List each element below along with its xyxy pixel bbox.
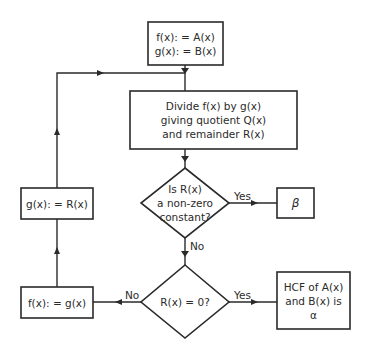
- node-assign-g: g(x): = R(x): [21, 188, 93, 219]
- node-init-line-1: f(x): = A(x): [156, 30, 215, 44]
- node-hcf-line-1: HCF of A(x): [284, 280, 344, 294]
- node-hcf-line-3: α: [310, 308, 317, 322]
- edge-label-nonzero-yes: Yes: [234, 190, 251, 202]
- node-divide: Divide f(x) by g(x) giving quotient Q(x)…: [130, 91, 297, 149]
- node-hcf: HCF of A(x) and B(x) is α: [277, 272, 350, 329]
- arrow-right-icon: [97, 70, 104, 76]
- node-assign-f-label: f(x): = g(x): [28, 296, 86, 310]
- node-divide-line-3: and remainder R(x): [162, 127, 264, 141]
- node-beta-label: β: [292, 196, 300, 210]
- arrow-right-icon: [251, 299, 258, 305]
- node-assign-f: f(x): = g(x): [21, 287, 93, 318]
- node-beta: β: [277, 188, 314, 218]
- node-assign-g-label: g(x): = R(x): [26, 197, 88, 211]
- arrow-up-icon: [54, 247, 60, 254]
- edge-label-zero-yes: Yes: [234, 289, 251, 301]
- node-decision-zero-label: R(x) = 0?: [160, 295, 209, 309]
- edge-label-nonzero-no: No: [190, 240, 204, 252]
- node-divide-line-1: Divide f(x) by g(x): [166, 99, 261, 113]
- node-decision-nonzero: Is R(x) a non-zero constant?: [141, 168, 229, 238]
- arrow-down-icon: [181, 156, 189, 162]
- arrow-down-icon: [181, 251, 189, 257]
- node-decision-nonzero-line-3: constant?: [159, 210, 210, 224]
- node-hcf-line-2: and B(x) is: [285, 294, 341, 308]
- node-decision-nonzero-line-2: a non-zero: [157, 196, 213, 210]
- arrow-left-icon: [115, 299, 122, 305]
- node-decision-nonzero-line-1: Is R(x): [168, 182, 202, 196]
- arrow-up-icon: [54, 128, 60, 135]
- node-decision-zero: R(x) = 0?: [141, 265, 229, 338]
- node-init: f(x): = A(x) g(x): = B(x): [148, 22, 223, 65]
- arrow-right-icon: [251, 200, 258, 206]
- edge-label-zero-no: No: [125, 289, 139, 301]
- node-init-line-2: g(x): = B(x): [155, 44, 217, 58]
- node-divide-line-2: giving quotient Q(x): [161, 113, 266, 127]
